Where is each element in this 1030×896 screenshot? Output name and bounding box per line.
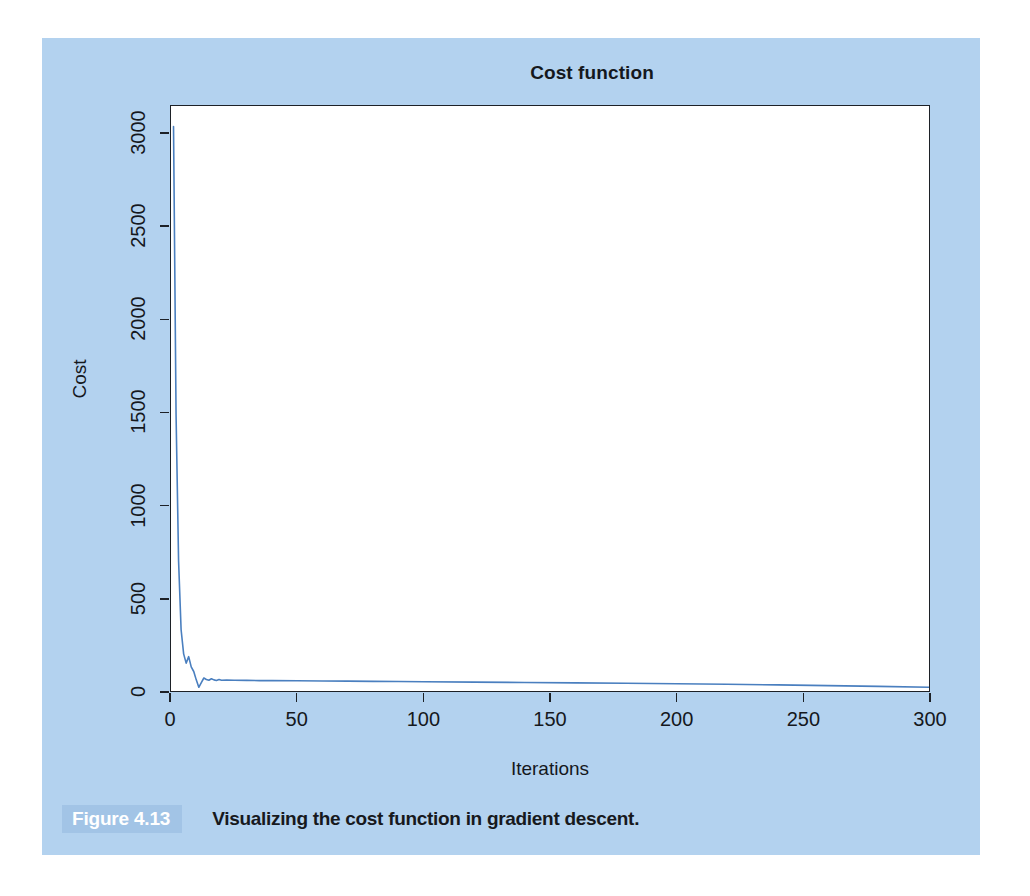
x-tick-label: 100 — [407, 708, 440, 731]
y-tick-label: 2000 — [127, 289, 150, 349]
plot-area — [170, 105, 930, 692]
x-axis-label: Iterations — [170, 758, 930, 780]
x-tick-label: 0 — [164, 708, 175, 731]
x-tick-mark — [676, 693, 678, 702]
x-tick-label: 50 — [286, 708, 308, 731]
chart-title: Cost function — [212, 62, 972, 84]
figure-caption-row: Figure 4.13 Visualizing the cost functio… — [62, 803, 962, 835]
y-tick-mark — [160, 132, 169, 134]
y-tick-label: 2500 — [127, 196, 150, 256]
y-tick-label: 3000 — [127, 102, 150, 162]
y-tick-mark — [160, 505, 169, 507]
y-tick-label: 1000 — [127, 475, 150, 535]
x-tick-mark — [169, 693, 171, 702]
y-tick-mark — [160, 225, 169, 227]
figure-number-badge: Figure 4.13 — [62, 805, 182, 833]
figure-caption-text: Visualizing the cost function in gradien… — [212, 808, 639, 830]
x-tick-mark — [929, 693, 931, 702]
y-tick-mark — [160, 319, 169, 321]
figure-panel: Cost function 050010001500200025003000 0… — [42, 38, 980, 855]
x-tick-label: 200 — [660, 708, 693, 731]
y-axis-label: Cost — [69, 359, 91, 398]
y-tick-label: 1500 — [127, 382, 150, 442]
x-tick-mark — [296, 693, 298, 702]
cost-function-line-chart — [171, 106, 929, 691]
y-tick-label: 0 — [127, 662, 150, 722]
x-tick-label: 250 — [787, 708, 820, 731]
y-tick-label: 500 — [127, 568, 150, 628]
cost-series-line — [174, 126, 929, 687]
x-tick-mark — [549, 693, 551, 702]
x-tick-label: 300 — [913, 708, 946, 731]
y-tick-mark — [160, 598, 169, 600]
x-tick-label: 150 — [533, 708, 566, 731]
y-tick-mark — [160, 691, 169, 693]
y-tick-mark — [160, 412, 169, 414]
x-tick-mark — [803, 693, 805, 702]
x-tick-mark — [423, 693, 425, 702]
